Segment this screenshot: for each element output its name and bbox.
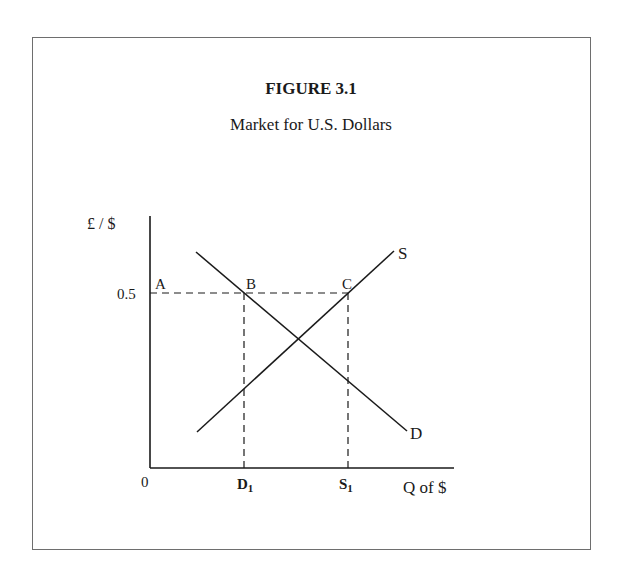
point-b-label: B: [246, 276, 256, 292]
point-a-label: A: [155, 276, 166, 292]
y-axis-label: £ / $: [87, 215, 115, 232]
s1-tick-sub: 1: [347, 482, 353, 494]
d1-tick-main: D: [237, 476, 248, 492]
s1-tick-label: S1: [339, 476, 353, 494]
x-axis-label: Q of $: [403, 478, 446, 497]
demand-label: D: [410, 424, 422, 443]
d1-tick-label: D1: [237, 476, 253, 494]
point-c-label: C: [342, 276, 352, 292]
y-tick-label: 0.5: [117, 286, 136, 302]
origin-label: 0: [141, 474, 149, 490]
s1-tick-main: S: [339, 476, 347, 492]
chart-canvas: £ / $ 0.5 0 Q of $ A B C S D D1 S1: [0, 0, 622, 580]
d1-tick-sub: 1: [248, 482, 254, 494]
supply-label: S: [398, 244, 407, 263]
